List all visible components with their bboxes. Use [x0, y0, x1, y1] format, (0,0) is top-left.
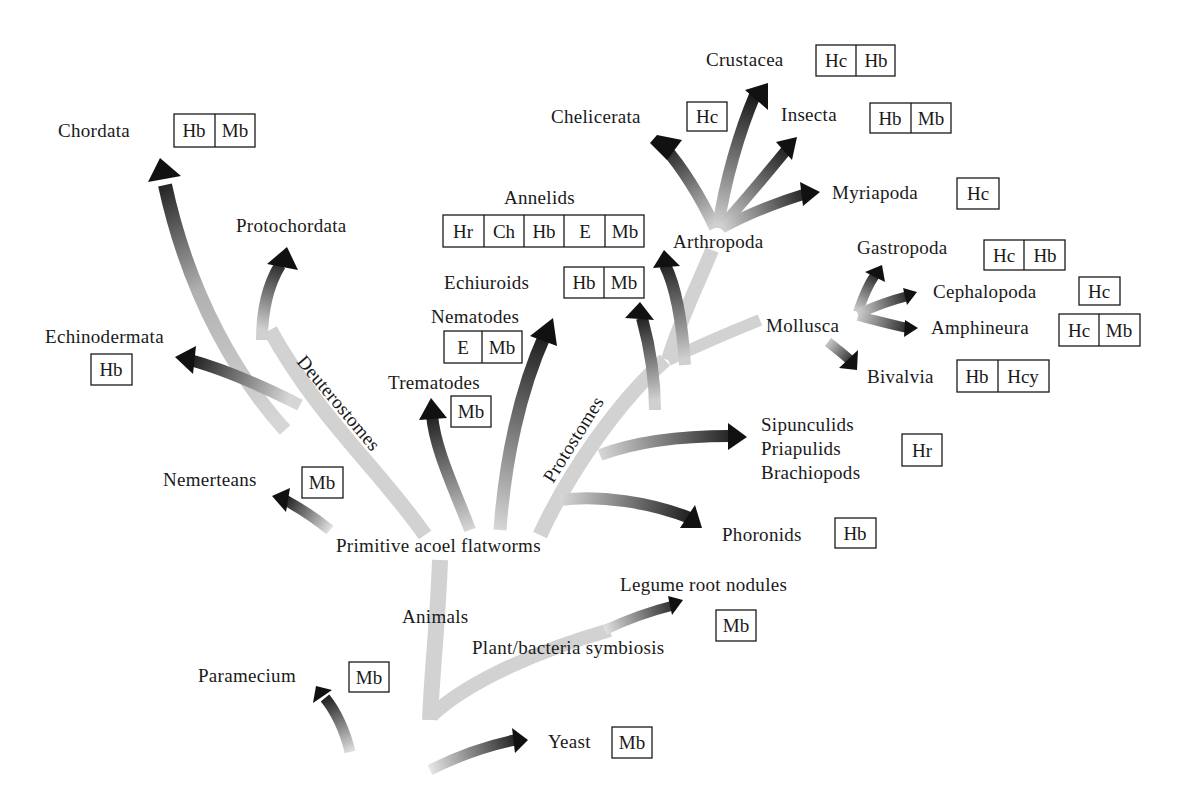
label-brachiopods: Brachiopods [761, 462, 860, 483]
svg-text:Hb: Hb [1033, 245, 1056, 266]
svg-text:Hr: Hr [912, 440, 933, 461]
label-yeast: Yeast [548, 731, 591, 752]
label-chelicerata: Chelicerata [551, 106, 641, 127]
label-annelids: Annelids [504, 187, 575, 208]
label-phoronids: Phoronids [722, 524, 802, 545]
svg-text:E: E [579, 221, 591, 242]
protein-box-cephalopoda: Hc [1079, 277, 1120, 305]
protein-box-annelids: Hr Ch Hb E Mb [443, 215, 644, 247]
arrow-sipunculids [600, 423, 747, 455]
phylogeny-diagram: Deuterostomes Protostomes Primitive acoe… [0, 0, 1185, 799]
arrow-amphineura [858, 316, 918, 337]
svg-text:E: E [457, 337, 469, 358]
svg-text:Hb: Hb [878, 108, 901, 129]
svg-text:Hc: Hc [967, 183, 989, 204]
protein-box-echiuroids: Hb Mb [564, 267, 644, 298]
protein-box-legume: Mb [716, 610, 756, 641]
protein-box-nemerteans: Mb [302, 467, 343, 498]
svg-text:Hc: Hc [696, 106, 718, 127]
label-chordata: Chordata [58, 120, 130, 141]
arrow-protochordata [262, 247, 298, 340]
svg-text:Mb: Mb [356, 667, 382, 688]
svg-text:Mb: Mb [619, 732, 645, 753]
label-paramecium: Paramecium [198, 665, 296, 686]
arrow-paramecium [313, 686, 350, 752]
label-nematodes: Nematodes [431, 306, 519, 327]
svg-text:Mb: Mb [612, 221, 638, 242]
svg-text:Ch: Ch [493, 221, 516, 242]
animals-trunk [430, 560, 440, 720]
arrow-phoronids [560, 498, 702, 528]
svg-text:Hc: Hc [825, 50, 847, 71]
protein-box-chordata: Hb Mb [174, 114, 255, 147]
protein-box-gastropoda: Hc Hb [984, 240, 1065, 270]
svg-text:Hcy: Hcy [1007, 366, 1039, 387]
protein-box-phoronids: Hb [835, 518, 876, 548]
protein-box-yeast: Mb [612, 727, 652, 758]
label-bivalvia: Bivalvia [867, 366, 934, 387]
svg-text:Mb: Mb [489, 337, 515, 358]
svg-text:Hb: Hb [99, 359, 122, 380]
protein-box-trematodes: Mb [451, 396, 491, 427]
label-trematodes: Trematodes [388, 372, 480, 393]
label-cephalopoda: Cephalopoda [933, 281, 1037, 302]
protein-box-bivalvia: Hb Hcy [957, 360, 1049, 392]
svg-text:Hc: Hc [993, 245, 1015, 266]
svg-text:Mb: Mb [723, 615, 749, 636]
arrow-legume [605, 596, 683, 630]
svg-text:Hb: Hb [864, 50, 887, 71]
svg-text:Hb: Hb [532, 221, 555, 242]
svg-text:Hc: Hc [1088, 281, 1110, 302]
label-gastropoda: Gastropoda [857, 237, 948, 258]
label-primitive-flatworms: Primitive acoel flatworms [336, 535, 541, 556]
protein-box-chelicerata: Hc [687, 102, 727, 131]
protein-box-echinodermata: Hb [91, 354, 132, 385]
svg-text:Hr: Hr [453, 221, 474, 242]
label-arthropoda: Arthropoda [673, 231, 764, 252]
label-plant-bacteria: Plant/bacteria symbiosis [472, 637, 664, 658]
label-legume: Legume root nodules [620, 574, 787, 595]
protein-box-insecta: Hb Mb [870, 103, 951, 133]
svg-text:Mb: Mb [918, 108, 944, 129]
label-animals: Animals [402, 606, 469, 627]
protein-box-myriapoda: Hc [957, 178, 999, 209]
protein-box-nematodes: E Mb [444, 331, 522, 363]
svg-text:Hb: Hb [965, 366, 988, 387]
label-echinodermata: Echinodermata [45, 326, 164, 347]
svg-text:Mb: Mb [458, 401, 484, 422]
svg-text:Hb: Hb [843, 523, 866, 544]
arrow-bivalvia [828, 342, 858, 370]
label-crustacea: Crustacea [706, 49, 784, 70]
label-priapulids: Priapulids [761, 438, 841, 459]
label-nemerteans: Nemerteans [163, 469, 257, 490]
svg-text:Mb: Mb [309, 472, 335, 493]
label-mollusca: Mollusca [766, 315, 839, 336]
label-amphineura: Amphineura [931, 317, 1029, 338]
protein-box-sipunculids: Hr [902, 434, 942, 466]
svg-text:Mb: Mb [611, 272, 637, 293]
protein-box-amphineura: Hc Mb [1059, 314, 1140, 346]
label-echiuroids: Echiuroids [444, 272, 529, 293]
protein-box-paramecium: Mb [349, 662, 389, 692]
svg-text:Hb: Hb [182, 120, 205, 141]
arrow-yeast [430, 728, 528, 770]
label-sipunculids: Sipunculids [761, 414, 854, 435]
label-insecta: Insecta [781, 104, 837, 125]
svg-text:Mb: Mb [222, 120, 248, 141]
label-myriapoda: Myriapoda [832, 182, 918, 203]
arrow-chelicerata [650, 135, 715, 228]
svg-text:Hb: Hb [572, 272, 595, 293]
label-protochordata: Protochordata [236, 215, 347, 236]
svg-text:Hc: Hc [1068, 320, 1090, 341]
svg-text:Mb: Mb [1106, 320, 1132, 341]
protein-box-crustacea: Hc Hb [816, 45, 895, 76]
